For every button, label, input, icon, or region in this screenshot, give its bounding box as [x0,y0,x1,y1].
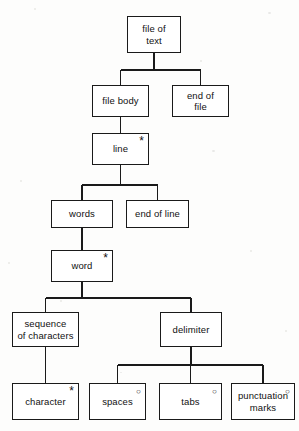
scan-speckle [268,12,271,14]
node-line[interactable]: line* [92,133,149,165]
scan-speckle [60,300,62,302]
scan-speckle [285,330,287,332]
node-label: sequence of characters [14,318,76,341]
node-label: punctuation marks [235,390,291,413]
node-spaces[interactable]: spaces○ [89,383,146,420]
structure-diagram-canvas: file of textfile bodyend of fileline*wor… [0,0,299,431]
node-punctuation-marks[interactable]: punctuation marks○ [231,383,295,420]
node-delimiter[interactable]: delimiter [160,312,222,347]
node-end-of-line[interactable]: end of line [126,200,189,228]
node-label: end of file [184,90,217,113]
node-label: words [66,208,98,220]
iteration-marker-icon: * [103,254,108,263]
node-label: spaces [99,396,136,408]
node-word[interactable]: word* [51,250,113,282]
scan-speckle [20,180,22,182]
node-label: end of line [132,208,183,220]
iteration-marker-icon: * [69,387,74,396]
node-tabs[interactable]: tabs○ [159,383,222,420]
selection-marker-icon: ○ [212,387,217,396]
scan-speckle [200,60,202,62]
node-label: delimiter [170,324,213,336]
iteration-marker-icon: * [139,137,144,146]
node-label: tabs [178,396,202,408]
node-label: word [69,260,96,272]
node-character[interactable]: character* [12,383,79,420]
selection-marker-icon: ○ [285,387,290,396]
node-sequence-of-characters[interactable]: sequence of characters [12,312,79,347]
node-file-body[interactable]: file body [92,85,149,117]
scan-speckle [34,8,36,10]
node-words[interactable]: words [51,200,113,228]
scan-speckle [120,372,122,373]
scan-speckle [8,262,10,264]
selection-marker-icon: ○ [136,387,141,396]
node-end-of-file[interactable]: end of file [172,85,229,117]
node-label: character [22,396,69,408]
scan-speckle [212,150,215,152]
node-file-of-text[interactable]: file of text [127,16,181,53]
node-label: line [110,143,131,155]
node-label: file body [99,95,141,107]
node-label: file of text [139,23,168,46]
scan-speckle [250,250,252,252]
